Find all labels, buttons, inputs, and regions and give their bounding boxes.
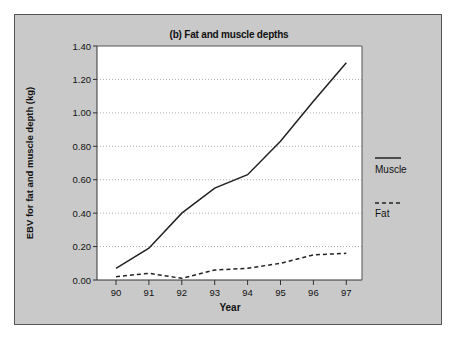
legend-fat-label: Fat [375,208,389,219]
legend-muscle-label: Muscle [375,164,407,175]
